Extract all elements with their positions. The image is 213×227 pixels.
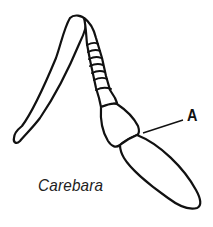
antenna-scape [14, 16, 86, 143]
figure-caption: Carebara [38, 176, 103, 196]
antenna-illustration [0, 0, 213, 227]
label-a-leader-line [143, 120, 183, 133]
antenna-funiculus [84, 18, 117, 107]
antenna-club-segment-2 [120, 135, 200, 209]
label-a: A [187, 106, 197, 126]
